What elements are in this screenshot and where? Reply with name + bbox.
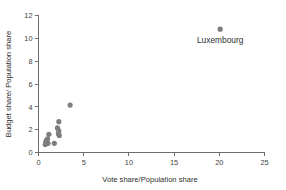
- data-point-label: Luxembourg: [197, 35, 244, 45]
- data-point: [52, 141, 57, 146]
- x-axis-tick-label: 15: [170, 158, 178, 167]
- y-axis-tick-label: 8: [28, 57, 32, 66]
- x-axis: 0510152025: [36, 153, 268, 167]
- x-axis-tick-label: 10: [125, 158, 133, 167]
- y-axis-tick-label: 0: [28, 148, 32, 157]
- data-point: [43, 142, 48, 147]
- x-axis-title: Vote share/Population share: [102, 175, 197, 184]
- x-axis-tick-label: 25: [260, 158, 268, 167]
- y-axis-tick-label: 12: [24, 11, 32, 20]
- data-points-layer: [43, 27, 223, 148]
- x-axis-tick-label: 5: [82, 158, 86, 167]
- chart-canvas: 024681012 0510152025 Luxembourg Vote sha…: [0, 0, 286, 190]
- x-axis-tick-label: 0: [36, 158, 40, 167]
- point-annotations-layer: Luxembourg: [197, 35, 244, 45]
- data-point: [68, 103, 73, 108]
- data-point: [56, 119, 61, 124]
- data-point: [46, 132, 51, 137]
- y-axis-tick-label: 2: [28, 125, 32, 134]
- y-axis-tick-label: 4: [28, 103, 32, 112]
- x-axis-tick-label: 20: [215, 158, 223, 167]
- y-axis: 024681012: [24, 11, 38, 157]
- y-axis-tick-label: 10: [24, 34, 32, 43]
- data-point: [218, 27, 223, 32]
- data-point: [57, 133, 62, 138]
- y-axis-title: Budget share/ Population share: [4, 31, 13, 137]
- scatter-chart-figure: 024681012 0510152025 Luxembourg Vote sha…: [0, 0, 286, 190]
- y-axis-tick-label: 6: [28, 80, 32, 89]
